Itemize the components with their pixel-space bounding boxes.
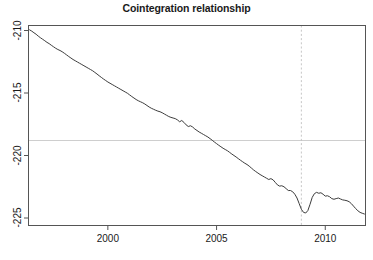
x-tick-label: 2005 (197, 233, 237, 244)
x-tick-label: 2010 (305, 233, 345, 244)
y-tick-label: -225 (12, 201, 23, 235)
y-tick-label: -220 (12, 138, 23, 172)
y-tick-label: -215 (12, 76, 23, 110)
x-tick-label: 2000 (88, 233, 128, 244)
plot-frame (29, 26, 366, 226)
chart-container: Cointegration relationship -210-215-220-… (0, 0, 373, 260)
data-line (30, 30, 365, 214)
plot-area (0, 0, 373, 260)
y-tick-label: -210 (12, 13, 23, 47)
